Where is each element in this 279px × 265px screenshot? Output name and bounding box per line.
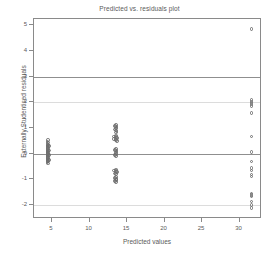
y-tick-4 bbox=[29, 50, 33, 51]
data-point bbox=[250, 135, 254, 139]
data-point bbox=[250, 160, 254, 164]
x-tick-25 bbox=[201, 218, 202, 222]
data-point bbox=[250, 206, 254, 210]
data-point bbox=[115, 130, 119, 134]
reference-line-2 bbox=[34, 102, 260, 103]
data-point bbox=[250, 104, 254, 108]
x-tick-label: 20 bbox=[153, 225, 175, 231]
y-tick-0 bbox=[29, 153, 33, 154]
data-point bbox=[250, 175, 254, 179]
data-point bbox=[113, 179, 117, 183]
chart-figure: Predicted vs. residuals plot -2-1012345 … bbox=[0, 0, 279, 265]
reference-line-3 bbox=[34, 77, 260, 78]
x-tick-label: 5 bbox=[40, 225, 62, 231]
data-point bbox=[250, 27, 254, 31]
data-point bbox=[250, 195, 254, 199]
x-tick-label: 15 bbox=[115, 225, 137, 231]
y-axis-label: Externally Studentised residuals bbox=[20, 37, 27, 187]
x-tick-30 bbox=[239, 218, 240, 222]
data-point bbox=[250, 111, 254, 115]
x-tick-5 bbox=[51, 218, 52, 222]
y-tick-label: -2 bbox=[0, 201, 27, 207]
x-tick-15 bbox=[126, 218, 127, 222]
x-axis-label: Predicted values bbox=[33, 238, 261, 245]
y-tick--2 bbox=[29, 204, 33, 205]
x-tick-label: 25 bbox=[190, 225, 212, 231]
y-tick--1 bbox=[29, 178, 33, 179]
x-tick-label: 10 bbox=[78, 225, 100, 231]
plot-area bbox=[33, 18, 261, 218]
reference-line--2 bbox=[34, 205, 260, 206]
y-tick-5 bbox=[29, 24, 33, 25]
x-tick-10 bbox=[89, 218, 90, 222]
data-point bbox=[113, 153, 117, 157]
x-tick-20 bbox=[164, 218, 165, 222]
data-point bbox=[250, 169, 254, 173]
data-point bbox=[47, 144, 51, 148]
data-point bbox=[250, 150, 254, 154]
data-point bbox=[47, 153, 51, 157]
data-point bbox=[47, 149, 51, 153]
y-tick-3 bbox=[29, 76, 33, 77]
y-tick-label: 5 bbox=[0, 21, 27, 27]
x-tick-label: 30 bbox=[228, 225, 250, 231]
data-point bbox=[115, 139, 119, 143]
y-tick-2 bbox=[29, 101, 33, 102]
reference-line-0 bbox=[34, 154, 260, 155]
y-tick-1 bbox=[29, 127, 33, 128]
data-point bbox=[47, 158, 51, 162]
chart-title: Predicted vs. residuals plot bbox=[0, 5, 279, 12]
